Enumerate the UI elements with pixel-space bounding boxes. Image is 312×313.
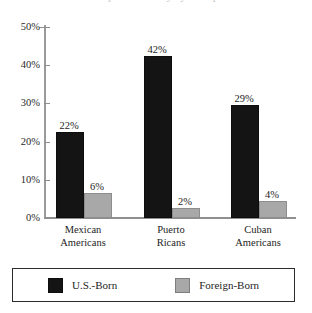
category-label-line: Mexican — [34, 224, 132, 237]
bar-foreign-born — [84, 193, 112, 218]
bar-value-label: 22% — [50, 120, 88, 131]
x-axis-category-label: MexicanAmericans — [34, 224, 132, 249]
bar-group: 22%6% — [56, 0, 110, 218]
bar-us-born — [144, 56, 172, 218]
plot-area: 0%10%20%30%40%50% 22%6%42%2%29%4% Mexica… — [0, 0, 312, 232]
legend-label-us-born: U.S.-Born — [72, 279, 117, 291]
bar-group: 29%4% — [231, 0, 285, 218]
legend-swatch-us-born — [48, 278, 63, 293]
bar-value-label: 2% — [166, 196, 204, 207]
legend-item-foreign-born: Foreign-Born — [175, 278, 259, 293]
category-label-line: Americans — [34, 237, 132, 250]
x-axis-category-label: PuertoRicans — [122, 224, 220, 249]
bar-us-born — [231, 105, 259, 218]
x-axis-category-label: CubanAmericans — [209, 224, 307, 249]
legend: U.S.-Born Foreign-Born — [12, 268, 295, 302]
legend-item-us-born: U.S.-Born — [48, 278, 117, 293]
bar-foreign-born — [259, 201, 287, 218]
legend-swatch-foreign-born — [175, 278, 190, 293]
bar-chart-figure: Hispanic Poverty by Group 0%10%20%30%40%… — [0, 0, 312, 313]
bar-foreign-born — [172, 208, 200, 218]
y-axis-tick — [44, 218, 50, 219]
category-label-line: Ricans — [122, 237, 220, 250]
category-label-line: Americans — [209, 237, 307, 250]
bar-value-label: 29% — [225, 93, 263, 104]
bar-value-label: 42% — [138, 44, 176, 55]
bar-value-label: 6% — [78, 181, 116, 192]
category-label-line: Cuban — [209, 224, 307, 237]
legend-label-foreign-born: Foreign-Born — [199, 279, 259, 291]
bar-us-born — [56, 132, 84, 218]
category-label-line: Puerto — [122, 224, 220, 237]
bar-value-label: 4% — [253, 189, 291, 200]
bar-group: 42%2% — [144, 0, 198, 218]
bars-layer: 22%6%42%2%29%4% — [0, 0, 312, 218]
